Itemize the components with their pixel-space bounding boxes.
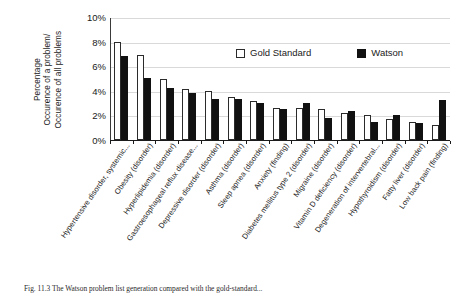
bar-watson [303,103,310,140]
bar-gold-standard [409,122,416,140]
y-axis-tick-label: 6% [92,62,106,72]
bar-group [427,18,450,140]
bar-group [201,18,224,140]
y-axis-title-line-2: Occurence of a problem/ [44,31,54,129]
y-axis-title-line-1: Percentage [34,31,44,129]
bar-gold-standard [318,109,325,140]
bar-watson [189,93,196,140]
bar-group [178,18,201,140]
bar-watson [257,103,264,140]
bar-watson [393,115,400,140]
bar-gold-standard [137,55,144,140]
bar-gold-standard [160,79,167,140]
x-axis-category-labels: Hypertensive disorder, systemic...Obesit… [110,142,450,268]
bar-gold-standard [205,91,212,140]
bar-watson [371,122,378,140]
bar-watson [144,78,151,140]
x-axis-line [110,140,450,141]
bar-watson [212,99,219,140]
figure: Percentage Occurence of a problem/ Occur… [0,0,464,294]
plot-area [110,18,450,141]
y-axis-tick-label: 8% [92,38,106,48]
plot-frame [110,18,450,141]
bar-watson [280,109,287,140]
bar-watson [348,111,355,140]
bar-group [269,18,292,140]
bar-group [382,18,405,140]
bar-group [314,18,337,140]
bar-group [337,18,360,140]
bar-group [110,18,133,140]
legend-item-gold-standard: Gold Standard [236,48,311,58]
bar-gold-standard [386,119,393,140]
legend-label-gold-standard: Gold Standard [250,48,311,58]
bar-gold-standard [182,89,189,140]
legend: Gold Standard Watson [236,48,403,58]
bar-watson [167,88,174,140]
figure-caption: Fig. 11.3 The Watson problem list genera… [24,284,444,293]
bar-watson [121,56,128,140]
bar-group [223,18,246,140]
bar-group [359,18,382,140]
bar-gold-standard [364,115,371,140]
bar-group [155,18,178,140]
bar-group [291,18,314,140]
y-axis-tick-label: 4% [92,87,106,97]
y-axis-tick-label: 2% [92,111,106,121]
bar-gold-standard [228,97,235,140]
y-axis-tick-label: 10% [87,13,106,23]
legend-label-watson: Watson [371,48,403,58]
x-axis-tick [450,141,451,144]
bar-watson [416,123,423,140]
bar-watson [235,99,242,140]
bar-gold-standard [273,108,280,140]
bar-gold-standard [114,42,121,140]
bar-watson [325,118,332,140]
bar-gold-standard [250,101,257,140]
filled-square-swatch-icon [357,49,366,58]
bar-gold-standard [341,113,348,140]
legend-item-watson: Watson [357,48,403,58]
bar-group [405,18,428,140]
bar-series-container [110,18,450,140]
y-axis-title-line-3: Occurence of all problems [54,31,64,129]
bar-group [246,18,269,140]
open-square-swatch-icon [236,49,245,58]
y-axis-tick-labels: 0%2%4%6%8%10% [72,18,106,141]
bar-gold-standard [296,108,303,140]
bar-watson [439,100,446,140]
bar-gold-standard [432,125,439,140]
y-axis-tick-label: 0% [92,136,106,146]
bar-group [133,18,156,140]
